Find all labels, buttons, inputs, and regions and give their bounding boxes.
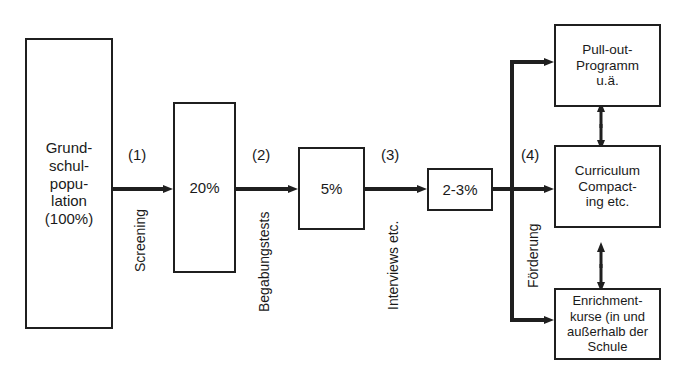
step-number-3: (3): [381, 146, 399, 163]
outcome-box-curriculum-compacting: Curriculum Compact- ing etc.: [554, 145, 661, 228]
step-label-screening: Screening: [132, 209, 148, 272]
outcome-label-pull-out: Pull-out- Programm u.ä.: [573, 42, 642, 90]
step-label-interviews: Interviews etc.: [385, 221, 401, 310]
flow-diagram: Grund- schul- popu- lation (100%) 20% 5%…: [0, 0, 681, 385]
step-number-4: (4): [521, 146, 539, 163]
stage-label-stage3: 2-3%: [439, 181, 480, 199]
stage-box-stage3: 2-3%: [427, 168, 493, 211]
stage-label-population: Grund- schul- popu- lation (100%): [42, 139, 96, 227]
step-label-foerderung: Förderung: [525, 223, 541, 288]
step-number-1: (1): [128, 146, 146, 163]
outcome-box-enrichment: Enrichment- kurse (in und außerhalb der …: [554, 288, 661, 360]
step-number-2: (2): [252, 146, 270, 163]
stage-box-population: Grund- schul- popu- lation (100%): [25, 38, 113, 329]
stage-box-stage2: 5%: [298, 147, 365, 230]
stage-label-stage1: 20%: [186, 179, 222, 197]
outcome-label-enrichment: Enrichment- kurse (in und außerhalb der …: [564, 293, 651, 354]
stage-box-stage1: 20%: [173, 102, 236, 273]
outcome-box-pull-out: Pull-out- Programm u.ä.: [554, 24, 661, 107]
stage-label-stage2: 5%: [318, 180, 346, 198]
outcome-label-curriculum-compacting: Curriculum Compact- ing etc.: [572, 163, 643, 211]
step-label-begabungstests: Begabungstests: [256, 212, 272, 312]
